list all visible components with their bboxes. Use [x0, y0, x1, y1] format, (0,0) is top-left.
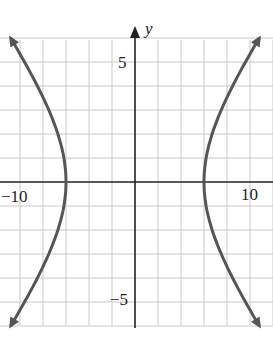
tick-label-x-10: 10 [241, 185, 258, 204]
tick-label-y-5: 5 [118, 53, 127, 72]
axes [0, 26, 273, 328]
y-axis-label: y [143, 19, 153, 38]
tick-label-x-neg10: −10 [1, 187, 28, 206]
hyperbola-graph: y 5 −5 −10 10 [0, 0, 273, 339]
y-axis-arrow-icon [130, 26, 140, 38]
tick-label-y-neg5: −5 [110, 290, 128, 309]
